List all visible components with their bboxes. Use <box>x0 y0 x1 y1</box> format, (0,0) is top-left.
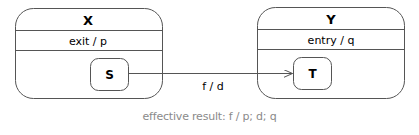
state-y: Y entry / q T <box>258 8 405 99</box>
substate-t-name: T <box>308 67 317 81</box>
substate-t: T <box>294 58 332 90</box>
state-x-exit-action: exit / p <box>69 35 107 48</box>
state-y-entry-action: entry / q <box>308 34 355 47</box>
state-x-name: X <box>83 13 93 28</box>
substate-s: S <box>91 59 129 91</box>
state-x: X exit / p S <box>16 9 163 99</box>
substate-s-name: S <box>105 68 114 82</box>
transition-label: f / d <box>202 80 224 93</box>
effective-result-caption: effective result: f / p; d; q <box>0 110 419 123</box>
state-y-name: Y <box>325 12 336 27</box>
